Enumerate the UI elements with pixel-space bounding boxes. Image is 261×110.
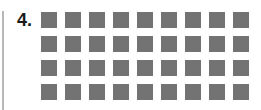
left-border-line	[2, 11, 4, 110]
grid-square	[185, 60, 201, 76]
grid-square	[137, 84, 153, 100]
grid-square	[233, 36, 249, 52]
grid-square	[41, 12, 57, 28]
grid-square	[41, 60, 57, 76]
grid-square	[65, 36, 81, 52]
item-number-label: 4.	[17, 11, 32, 29]
grid-square	[113, 60, 129, 76]
grid-square	[209, 60, 225, 76]
grid-square	[161, 36, 177, 52]
square-grid	[41, 12, 249, 100]
grid-square	[65, 84, 81, 100]
grid-square	[185, 12, 201, 28]
grid-square	[113, 84, 129, 100]
grid-square	[65, 60, 81, 76]
grid-square	[113, 36, 129, 52]
grid-square	[233, 84, 249, 100]
grid-square	[233, 60, 249, 76]
grid-square	[209, 84, 225, 100]
grid-square	[41, 84, 57, 100]
grid-square	[65, 12, 81, 28]
grid-square	[137, 12, 153, 28]
grid-square	[161, 12, 177, 28]
grid-square	[233, 12, 249, 28]
grid-square	[89, 36, 105, 52]
grid-square	[209, 36, 225, 52]
grid-square	[185, 84, 201, 100]
grid-square	[161, 84, 177, 100]
grid-square	[137, 60, 153, 76]
grid-square	[41, 36, 57, 52]
grid-square	[161, 60, 177, 76]
grid-square	[113, 12, 129, 28]
grid-square	[89, 84, 105, 100]
grid-square	[89, 12, 105, 28]
grid-square	[209, 12, 225, 28]
grid-square	[89, 60, 105, 76]
grid-square	[137, 36, 153, 52]
grid-square	[185, 36, 201, 52]
